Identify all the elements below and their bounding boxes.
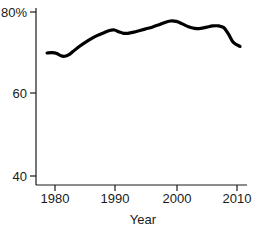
- chart-container: 80% 60 40 1980 1990 2000 2010 Year: [0, 0, 260, 231]
- y-tick-label-40: 40: [13, 169, 27, 184]
- line-chart: 80% 60 40 1980 1990 2000 2010 Year: [0, 0, 260, 231]
- x-tick-label-2000: 2000: [163, 191, 192, 206]
- x-tick-label-1980: 1980: [41, 191, 70, 206]
- x-tick-label-1990: 1990: [101, 191, 130, 206]
- x-axis-title: Year: [130, 212, 157, 227]
- data-series-line: [47, 21, 240, 56]
- x-tick-label-2010: 2010: [223, 191, 252, 206]
- y-tick-label-60: 60: [13, 86, 27, 101]
- y-tick-label-80: 80%: [1, 5, 27, 20]
